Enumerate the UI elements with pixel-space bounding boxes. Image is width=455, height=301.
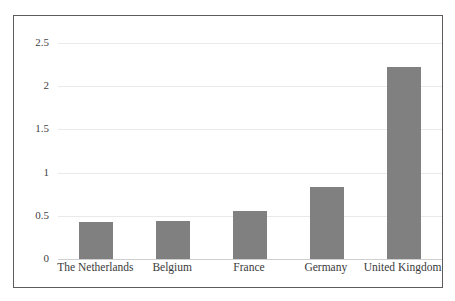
plot-area	[58, 43, 442, 259]
bar-chart: 00.511.522.5 The NetherlandsBelgiumFranc…	[0, 0, 455, 301]
y-tick-label: 2	[44, 80, 50, 91]
y-tick-label: 0	[44, 253, 50, 264]
y-tick-label: 0.5	[35, 209, 49, 220]
gridline-y-0	[58, 259, 442, 260]
x-tick-label: France	[233, 262, 264, 274]
bar	[310, 187, 344, 259]
y-tick-label: 1.5	[35, 123, 49, 134]
y-tick-label: 1	[44, 166, 50, 177]
gridline-y-1-5	[58, 129, 442, 130]
x-tick-label: United Kingdom	[364, 262, 442, 274]
gridline-y-1	[58, 173, 442, 174]
y-axis-tick-labels: 00.511.522.5	[13, 42, 49, 258]
x-tick-label: Belgium	[152, 262, 192, 274]
bar	[156, 221, 190, 259]
gridline-y-2-5	[58, 43, 442, 44]
gridline-y-2	[58, 86, 442, 87]
x-tick-label: Germany	[304, 262, 347, 274]
chart-frame	[13, 15, 443, 288]
bar	[387, 67, 421, 259]
x-tick-label: The Netherlands	[57, 262, 133, 274]
bar	[79, 222, 113, 259]
y-tick-label: 2.5	[35, 37, 49, 48]
bar	[233, 211, 267, 259]
